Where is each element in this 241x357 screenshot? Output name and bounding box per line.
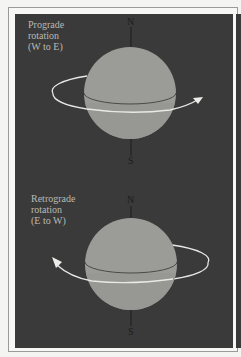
label-line: (W to E) [28, 41, 64, 52]
north-pole-label: N [127, 17, 134, 27]
retrograde-diagram [52, 206, 209, 326]
arrow-right-icon [193, 97, 203, 104]
prograde-diagram [52, 27, 203, 156]
orbit-back-arc [172, 245, 209, 279]
label-line: rotation [31, 204, 75, 215]
label-line: (E to W) [31, 215, 75, 226]
retrograde-label: Retrograde rotation (E to W) [31, 193, 75, 226]
label-line: Prograde [28, 19, 64, 30]
north-pole-label: N [127, 195, 134, 205]
south-pole-label: S [128, 327, 134, 337]
south-pole-label: S [128, 156, 134, 166]
rotation-diagram [0, 0, 241, 357]
label-line: Retrograde [31, 193, 75, 204]
label-line: rotation [28, 30, 64, 41]
arrow-left-icon [52, 257, 62, 268]
orbit-back-arc [52, 76, 87, 109]
prograde-label: Prograde rotation (W to E) [28, 19, 64, 52]
